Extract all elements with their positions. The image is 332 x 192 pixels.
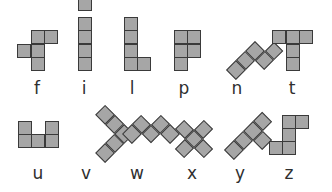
cell bbox=[124, 44, 138, 58]
cell bbox=[78, 30, 92, 44]
cell bbox=[174, 44, 188, 58]
cell bbox=[124, 17, 138, 31]
cell bbox=[137, 57, 151, 71]
cell bbox=[18, 134, 32, 148]
label-w: w bbox=[122, 163, 152, 183]
cell bbox=[17, 44, 31, 58]
label-p: p bbox=[169, 78, 199, 98]
label-n: n bbox=[222, 78, 252, 98]
cell bbox=[78, 57, 92, 71]
label-i: i bbox=[69, 78, 99, 98]
cell bbox=[282, 115, 296, 129]
cell bbox=[174, 57, 188, 71]
cell bbox=[78, 0, 92, 11]
cell bbox=[174, 30, 188, 44]
cell bbox=[286, 44, 300, 58]
label-v: v bbox=[71, 163, 101, 183]
label-t: t bbox=[277, 78, 307, 98]
cell bbox=[78, 17, 92, 31]
cell bbox=[18, 121, 32, 135]
cell bbox=[124, 57, 138, 71]
cell bbox=[286, 30, 300, 44]
cell bbox=[45, 121, 59, 135]
label-u: u bbox=[23, 163, 53, 183]
label-x: x bbox=[177, 163, 207, 183]
cell bbox=[44, 30, 58, 44]
cell bbox=[31, 134, 45, 148]
cell bbox=[269, 141, 283, 155]
cell bbox=[124, 30, 138, 44]
cell bbox=[187, 30, 201, 44]
cell bbox=[31, 30, 45, 44]
cell bbox=[295, 115, 309, 129]
cell bbox=[299, 30, 313, 44]
cell bbox=[78, 44, 92, 58]
label-f: f bbox=[22, 78, 52, 98]
label-l: l bbox=[117, 78, 147, 98]
cell bbox=[31, 57, 45, 71]
cell bbox=[282, 128, 296, 142]
label-y: y bbox=[225, 163, 255, 183]
cell bbox=[31, 44, 45, 58]
label-z: z bbox=[274, 163, 304, 183]
cell bbox=[286, 57, 300, 71]
cell bbox=[282, 141, 296, 155]
cell bbox=[187, 44, 201, 58]
cell bbox=[45, 134, 59, 148]
cell bbox=[272, 30, 286, 44]
